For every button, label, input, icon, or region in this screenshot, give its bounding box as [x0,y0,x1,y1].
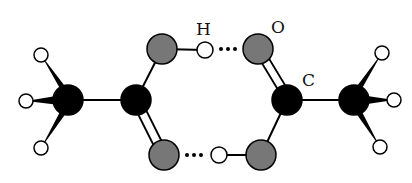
label-carbon: C [302,70,315,90]
hydrogen-atom-h8 [211,147,227,163]
hydrogen-atom-h5 [387,93,401,107]
hydrogen-bonds [185,47,237,157]
hydrogen-atom-h1 [34,48,48,62]
carbon-atom-c1 [53,85,83,115]
oxygen-atom-o3 [243,34,273,64]
carbon-atom-c4 [339,85,369,115]
atoms [19,34,401,170]
oxygen-atom-o2 [149,140,179,170]
carbon-atom-c2 [121,85,151,115]
label-hydrogen: H [196,19,211,39]
hydrogen-atom-h2 [19,94,33,108]
hydrogen-atom-h3 [34,141,48,155]
molecule-diagram: H O C [0,0,412,183]
label-oxygen: O [271,17,285,37]
carbon-atom-c3 [272,85,302,115]
hbond-top-dot-2 [226,47,230,51]
hydrogen-atom-h7 [197,42,213,58]
hbond-bottom-dot-1 [185,153,189,157]
hbond-bottom-dot-3 [199,153,203,157]
bonds [68,49,354,155]
hydrogen-atom-h4 [375,46,389,60]
hbond-top-dot-1 [219,47,223,51]
hbond-bottom-dot-2 [192,153,196,157]
hydrogen-atom-h6 [373,140,387,154]
oxygen-atom-o4 [246,140,276,170]
oxygen-atom-o1 [147,34,177,64]
hbond-top-dot-3 [233,47,237,51]
